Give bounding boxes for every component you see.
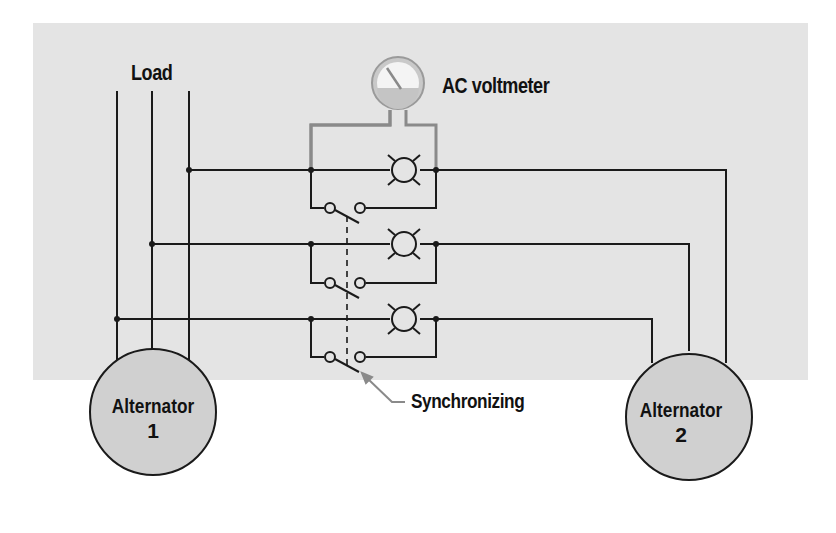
circuit-diagram	[0, 0, 836, 533]
lamps	[388, 155, 420, 334]
switch-loops	[311, 170, 436, 357]
synchronizing-label: Synchronizing	[411, 389, 524, 413]
phase-lines	[117, 170, 726, 363]
voltmeter-label: AC voltmeter	[442, 73, 549, 99]
load-bus-lines	[117, 91, 189, 362]
switch-contacts	[325, 203, 365, 372]
sync-pointer-arrow	[362, 373, 405, 402]
alternator-2-name: Alternator	[632, 397, 730, 422]
alternator-2-number: 2	[621, 422, 741, 447]
lamp-icon	[388, 229, 420, 259]
alternator-1-label: Alternator 1	[93, 393, 213, 443]
lamp-icon	[388, 304, 420, 334]
alternator-2-label: Alternator 2	[621, 397, 741, 447]
meter-wires	[311, 110, 390, 170]
alternator-1-number: 1	[93, 418, 213, 443]
alternator-1-name: Alternator	[104, 393, 202, 418]
lamp-icon	[388, 155, 420, 185]
voltmeter-icon	[372, 57, 424, 109]
load-label: Load	[131, 60, 172, 86]
